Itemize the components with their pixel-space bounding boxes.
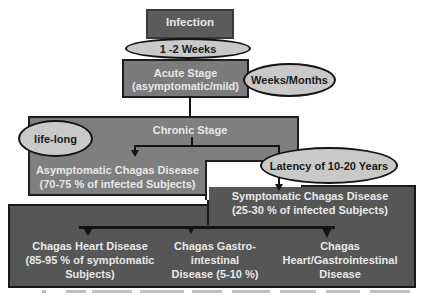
heart-disease-percentage: (85-95 % of symptomatic	[10, 254, 170, 267]
acute-duration-label: Weeks/Months	[251, 74, 328, 86]
connector-chronic-branch	[134, 145, 279, 147]
connector-outcomes-bar	[79, 226, 335, 229]
latency-ellipse: Latency of 10-20 Years	[260, 147, 398, 184]
cropped-caption	[0, 288, 424, 296]
heart-disease-percentage-cont: Subjects)	[10, 268, 170, 281]
heart-disease-label: Chagas Heart Disease	[10, 240, 170, 253]
acute-stage-label: Acute Stage	[122, 67, 249, 80]
asymptomatic-label: Asymptomatic Chagas Disease	[30, 164, 205, 177]
gi-disease-percentage: Disease (5-10 %)	[160, 268, 270, 281]
infection-label: Infection	[146, 16, 234, 29]
arrow-to-gi	[188, 228, 194, 234]
arrow-to-mixed	[322, 228, 332, 238]
mixed-disease-label-cont: Heart/Gastrointestinal	[275, 254, 405, 267]
chronic-duration-ellipse: life-long	[18, 120, 93, 157]
arrow-to-heart	[83, 228, 93, 236]
symptomatic-percentage: (25-30 % of infected Subjects)	[210, 204, 410, 217]
mixed-disease-label: Chagas	[275, 240, 405, 253]
interval-1-2-weeks-label: 1 -2 Weeks	[160, 43, 217, 55]
mixed-disease-label-end: Disease	[275, 268, 405, 281]
latency-label: Latency of 10-20 Years	[270, 160, 388, 172]
connector-acute-chronic	[189, 97, 191, 117]
chronic-stage-label: Chronic Stage	[120, 124, 260, 137]
gi-disease-label: Chagas Gastro-	[160, 240, 270, 253]
symptomatic-label: Symptomatic Chagas Disease	[210, 190, 410, 203]
asymptomatic-percentage: (70-75 % of infected Subjects)	[30, 178, 205, 191]
interval-1-2-weeks-ellipse: 1 -2 Weeks	[125, 38, 251, 59]
chronic-duration-label: life-long	[34, 133, 77, 145]
gi-disease-label-cont: intestinal	[160, 254, 270, 267]
acute-stage-sublabel: (asymptomatic/mild)	[122, 80, 249, 93]
acute-duration-ellipse: Weeks/Months	[243, 63, 336, 97]
arrow-to-asymptomatic	[131, 150, 139, 157]
